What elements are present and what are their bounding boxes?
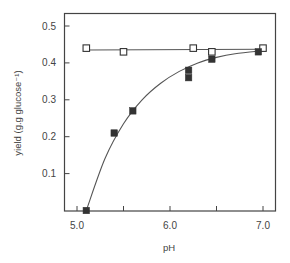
filled-square-marker: [185, 74, 192, 81]
open-square-marker: [83, 45, 90, 52]
filled-square-marker: [185, 67, 192, 74]
x-tick-label: 6.0: [163, 220, 177, 231]
x-tick-label: 5.0: [70, 220, 84, 231]
filled-square-marker: [255, 49, 262, 56]
filled-square-marker: [209, 56, 216, 63]
y-axis-ticks: 0.10.20.30.40.5: [42, 21, 69, 180]
x-tick-label: 7.0: [256, 220, 270, 231]
yield-vs-ph-chart: 5.06.07.0 0.10.20.30.40.5 pH yield (g.g …: [0, 0, 290, 263]
y-tick-label: 0.1: [42, 168, 56, 179]
open-square-marker: [190, 45, 197, 52]
y-tick-label: 0.5: [42, 21, 56, 32]
y-axis-label: yield (g.g glucose⁻¹): [12, 70, 23, 155]
filled-square-marker: [130, 108, 137, 115]
filled-square-marker: [111, 130, 118, 137]
y-tick-label: 0.4: [42, 57, 56, 68]
open-square-marker: [209, 49, 216, 56]
x-axis-label: pH: [163, 242, 175, 253]
data-markers: [83, 45, 266, 214]
fit-line: [86, 49, 263, 50]
y-tick-label: 0.3: [42, 94, 56, 105]
y-tick-label: 0.2: [42, 131, 56, 142]
open-square-marker: [120, 49, 127, 56]
x-axis-ticks: 5.06.07.0: [70, 206, 270, 231]
filled-square-marker: [83, 207, 90, 214]
